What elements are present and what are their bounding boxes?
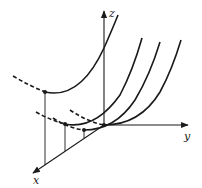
y-axis-label: y [183,130,191,143]
lower-parabola-1 [36,38,142,126]
upper-min-point [43,90,47,94]
x-axis [33,125,104,173]
z-axis-label: z [108,7,115,20]
lower-3-min-point [102,123,106,127]
axes [33,11,188,173]
upper-parabola [13,15,118,94]
diagram-figure: z y x [0,0,202,188]
x-axis-label: x [33,174,40,187]
lower-parabola-2 [53,42,160,132]
lower-2-min-point [82,128,86,132]
